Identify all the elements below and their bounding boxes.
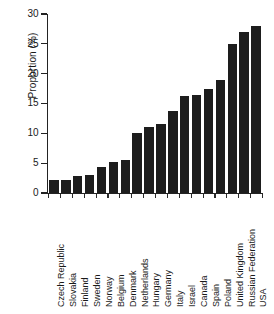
bar (156, 124, 166, 193)
x-tick (203, 194, 204, 198)
x-tick (84, 194, 85, 198)
x-tick (143, 194, 144, 198)
x-tick (96, 194, 97, 198)
bar (121, 160, 131, 193)
bar-slot (119, 14, 131, 193)
bar (144, 127, 154, 193)
y-tick-label: 0 (33, 188, 39, 198)
bar (239, 32, 249, 193)
bar (168, 111, 178, 193)
x-tick-label: Belgium (117, 274, 126, 307)
x-tick (60, 194, 61, 198)
bar (180, 96, 190, 193)
x-tick-label: Denmark (129, 270, 138, 307)
x-tick-label: Sweden (93, 274, 102, 307)
bar-slot (238, 14, 250, 193)
x-tick (131, 194, 132, 198)
x-tick-label: Slovakia (69, 273, 78, 307)
x-tick-label: Spain (212, 284, 221, 307)
bar (216, 80, 226, 193)
x-tick (179, 194, 180, 198)
x-tick-label: United Kingdom (236, 243, 245, 307)
bar-slot (131, 14, 143, 193)
x-tick-label: USA (259, 288, 268, 307)
x-tick-label: Finland (81, 277, 90, 307)
x-tick (238, 194, 239, 198)
bar (61, 180, 71, 193)
bar-slot (72, 14, 84, 193)
y-tick-10: 10 (41, 133, 47, 134)
y-tick-15: 15 (41, 103, 47, 104)
bar (192, 95, 202, 193)
y-tick-label: 25 (27, 39, 38, 49)
x-tick (262, 194, 263, 198)
bar-slot (226, 14, 238, 193)
bar (204, 89, 214, 193)
y-tick-label: 10 (27, 128, 38, 138)
x-tick-label: Israel (188, 285, 197, 307)
y-tick-label: 30 (27, 9, 38, 19)
x-tick-label: Germany (164, 270, 173, 307)
x-tick-label: Russian Federation (248, 229, 257, 307)
x-tick-label: Netherlands (141, 258, 150, 307)
x-tick (250, 194, 251, 198)
y-tick-5: 5 (41, 163, 47, 164)
x-tick (214, 194, 215, 198)
y-tick-30: 30 (41, 13, 47, 14)
bar (85, 175, 95, 193)
bar-slot (96, 14, 108, 193)
bar-slot (48, 14, 60, 193)
x-tick (155, 194, 156, 198)
bar-chart-figure: Proportion (%) 051015202530 Czech Republ… (0, 0, 274, 314)
x-tick-label: Poland (224, 279, 233, 307)
x-tick-label: Canada (200, 275, 209, 307)
x-tick-label: Italy (176, 290, 185, 307)
bar (228, 44, 238, 193)
bar (97, 167, 107, 193)
x-tick-label: Norway (105, 276, 114, 307)
y-tick-20: 20 (41, 73, 47, 74)
bar (109, 162, 119, 193)
x-tick (72, 194, 73, 198)
x-tick-label: Czech Republic (57, 244, 66, 307)
bar-slot (143, 14, 155, 193)
x-tick (48, 194, 49, 198)
bar (251, 26, 261, 193)
y-tick-label: 20 (27, 69, 38, 79)
x-axis-ticks (48, 194, 262, 198)
bar (49, 180, 59, 193)
x-tick (107, 194, 108, 198)
bar-slot (179, 14, 191, 193)
bar (132, 133, 142, 193)
bar-slot (60, 14, 72, 193)
y-tick-25: 25 (41, 43, 47, 44)
bar-slot (84, 14, 96, 193)
bar (73, 176, 83, 193)
cut-off-title (46, 0, 246, 4)
bar-slot (191, 14, 203, 193)
bar-slot (155, 14, 167, 193)
bar-slot (214, 14, 226, 193)
x-axis-labels: Czech RepublicSlovakiaFinlandSwedenNorwa… (48, 199, 262, 311)
x-tick-label: Hungary (152, 273, 161, 307)
x-tick (167, 194, 168, 198)
x-tick (226, 194, 227, 198)
x-tick (191, 194, 192, 198)
y-tick-label: 15 (27, 98, 38, 108)
y-tick-label: 5 (33, 158, 39, 168)
bar-slot (203, 14, 215, 193)
bar-slot (107, 14, 119, 193)
plot-area (48, 14, 262, 193)
bar-slot (250, 14, 262, 193)
x-tick (119, 194, 120, 198)
bar-slot (167, 14, 179, 193)
